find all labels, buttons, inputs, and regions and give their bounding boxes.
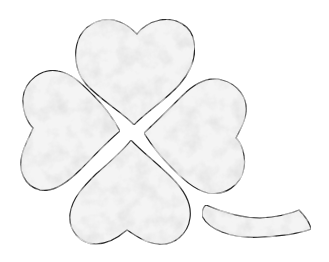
clover-svg (0, 0, 329, 262)
clover-illustration (0, 0, 329, 262)
stem (202, 205, 311, 237)
